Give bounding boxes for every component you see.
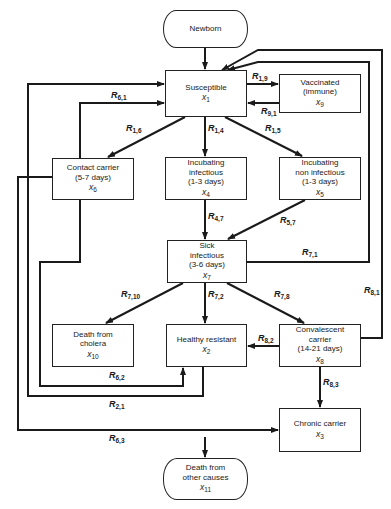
node-label-2: infectious — [189, 168, 223, 178]
rate-label-r57: R5,7 — [280, 215, 296, 226]
node-variable: x4 — [202, 188, 210, 200]
node-variable: x10 — [87, 350, 98, 362]
node-variable: x7 — [203, 271, 211, 283]
rate-label-r47: R4,7 — [208, 211, 224, 222]
node-label-2: non infectious — [295, 168, 344, 178]
node-variable: x1 — [202, 93, 210, 105]
node-variable: x9 — [316, 98, 324, 110]
rate-label-r63: R6,3 — [109, 433, 125, 444]
rate-label-r83: R8,3 — [323, 377, 339, 388]
node-label: Sick — [199, 241, 214, 251]
rate-label-r82: R8,2 — [258, 333, 274, 344]
node-label: Vaccinated — [301, 78, 340, 88]
node-variable: x3 — [316, 430, 324, 442]
node-variable: x5 — [316, 188, 324, 200]
node-label: Convalescent — [296, 325, 344, 335]
rate-label-r19: R1,9 — [252, 71, 268, 82]
node-label: Susceptible — [185, 83, 226, 93]
node-contact-carrier: Contact carrier (5-7 days) x6 — [52, 158, 134, 200]
rate-label-r21: R2,1 — [109, 399, 125, 410]
rate-label-r91: R9,1 — [261, 106, 277, 117]
node-variable: x6 — [89, 183, 97, 195]
node-variable: x2 — [203, 345, 211, 357]
rate-label-r14: R1,4 — [208, 123, 224, 134]
arrow-r63 — [18, 177, 278, 430]
node-variable: x11 — [200, 483, 211, 495]
node-label-2: carrier — [309, 335, 332, 345]
node-sick-infectious: Sick infectious (3-6 days) x7 — [167, 240, 247, 283]
node-label: Incubating — [188, 158, 225, 168]
node-incubating-infectious: Incubating infectious (1-3 days) x4 — [165, 157, 247, 200]
node-label: Incubating — [302, 158, 339, 168]
arrow-r710 — [106, 283, 183, 323]
arrow-r15 — [225, 117, 302, 156]
node-incubating-non-infectious: Incubating non infectious (1-3 days) x5 — [279, 157, 361, 200]
node-sublabel: (14-21 days) — [298, 344, 343, 354]
arrow-r16 — [108, 117, 185, 157]
rate-label-r15: R1,5 — [265, 123, 281, 134]
node-sublabel: (1-3 days) — [188, 177, 224, 187]
node-chronic-carrier: Chronic carrier x3 — [279, 408, 361, 452]
rate-label-r71: R7,1 — [302, 247, 318, 258]
node-label-2: infectious — [190, 251, 224, 261]
node-death-other-causes: Death from other causes x11 — [163, 458, 248, 500]
rate-label-r72: R7,2 — [208, 289, 224, 300]
node-label: Chronic carrier — [294, 419, 346, 429]
node-label: Death from — [186, 463, 226, 473]
arrow-r78 — [227, 283, 304, 323]
node-newborn: Newborn — [163, 10, 248, 48]
node-label: Newborn — [189, 24, 221, 34]
node-sublabel: (1-3 days) — [302, 177, 338, 187]
node-vaccinated: Vaccinated (immune) x9 — [279, 74, 361, 113]
node-susceptible: Susceptible x1 — [165, 70, 247, 117]
rate-label-r78: R7,8 — [274, 289, 290, 300]
node-variable: x8 — [316, 355, 324, 367]
node-label: Death from — [73, 330, 113, 340]
node-convalescent-carrier: Convalescent carrier (14-21 days) x8 — [279, 324, 361, 367]
rate-label-r16: R1,6 — [126, 123, 142, 134]
node-label: Contact carrier — [67, 163, 119, 173]
node-sublabel: (immune) — [303, 87, 337, 97]
node-sublabel: (5-7 days) — [75, 173, 111, 183]
rate-label-r62: R6,2 — [109, 370, 125, 381]
node-sublabel: (3-6 days) — [189, 260, 225, 270]
rate-label-r81: R8,1 — [364, 285, 380, 296]
node-healthy-resistant: Healthy resistant x2 — [166, 324, 247, 367]
node-label-2: cholera — [80, 339, 106, 349]
node-death-from-cholera: Death from cholera x10 — [52, 324, 134, 367]
node-label-2: other causes — [183, 473, 229, 483]
rate-label-r710: R7,10 — [121, 289, 140, 300]
rate-label-r61: R6,1 — [111, 90, 127, 101]
node-label: Healthy resistant — [177, 335, 237, 345]
